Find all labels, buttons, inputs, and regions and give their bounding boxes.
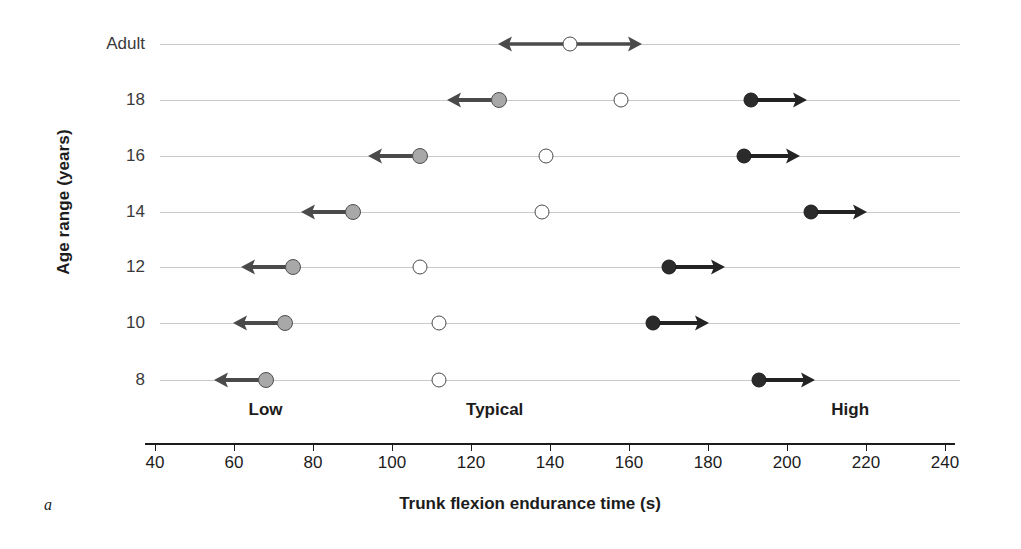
marker-low xyxy=(258,372,274,388)
x-tick-label-100: 100 xyxy=(362,453,422,473)
x-tick-240 xyxy=(945,445,946,451)
x-tick-label-160: 160 xyxy=(599,453,659,473)
x-tick-160 xyxy=(629,445,630,451)
marker-high xyxy=(803,205,818,220)
x-tick-120 xyxy=(471,445,472,451)
y-tick-label-14: 14 xyxy=(55,202,145,222)
marker-typical xyxy=(562,37,577,52)
x-tick-label-140: 140 xyxy=(520,453,580,473)
marker-high xyxy=(752,373,767,388)
marker-low xyxy=(491,92,507,108)
x-tick-180 xyxy=(708,445,709,451)
x-tick-label-120: 120 xyxy=(441,453,501,473)
x-tick-140 xyxy=(550,445,551,451)
y-tick-label-12: 12 xyxy=(55,257,145,277)
zone-label-low: Low xyxy=(196,400,336,420)
x-tick-100 xyxy=(392,445,393,451)
x-tick-200 xyxy=(787,445,788,451)
x-tick-label-240: 240 xyxy=(915,453,975,473)
marker-low xyxy=(277,315,293,331)
y-tick-label-16: 16 xyxy=(55,146,145,166)
marker-low xyxy=(285,259,301,275)
marker-high xyxy=(744,93,759,108)
marker-high xyxy=(661,260,676,275)
x-tick-label-220: 220 xyxy=(836,453,896,473)
chart-figure: Age range (years) a Trunk flexion endura… xyxy=(0,0,1021,549)
x-tick-60 xyxy=(234,445,235,451)
x-tick-label-80: 80 xyxy=(283,453,343,473)
x-tick-label-200: 200 xyxy=(757,453,817,473)
marker-typical xyxy=(539,149,554,164)
marker-typical xyxy=(412,260,427,275)
marker-low xyxy=(345,204,361,220)
y-tick-label-18: 18 xyxy=(55,90,145,110)
y-tick-label-10: 10 xyxy=(55,313,145,333)
x-tick-80 xyxy=(313,445,314,451)
marker-low xyxy=(412,148,428,164)
marker-typical xyxy=(535,205,550,220)
panel-letter: a xyxy=(44,496,52,514)
y-tick-label-adult: Adult xyxy=(55,34,145,54)
gridline-row xyxy=(160,156,960,157)
y-tick-label-8: 8 xyxy=(55,370,145,390)
marker-high xyxy=(736,149,751,164)
x-tick-label-40: 40 xyxy=(125,453,185,473)
gridline-row xyxy=(160,100,960,101)
x-tick-220 xyxy=(866,445,867,451)
marker-typical xyxy=(614,93,629,108)
x-tick-label-60: 60 xyxy=(204,453,264,473)
zone-label-typical: Typical xyxy=(425,400,565,420)
marker-typical xyxy=(432,316,447,331)
marker-high xyxy=(645,316,660,331)
x-axis-title: Trunk flexion endurance time (s) xyxy=(310,494,750,514)
marker-typical xyxy=(432,373,447,388)
x-tick-40 xyxy=(155,445,156,451)
x-tick-label-180: 180 xyxy=(678,453,738,473)
zone-label-high: High xyxy=(780,400,920,420)
